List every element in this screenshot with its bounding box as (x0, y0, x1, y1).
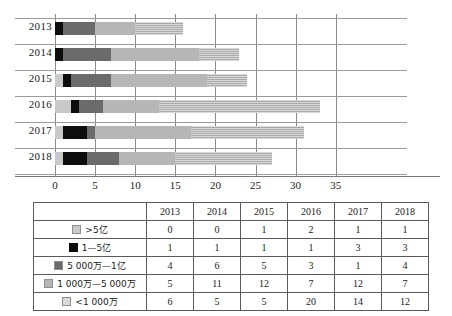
table-cell-2018: 1 (382, 221, 429, 239)
bar-segment-2016-s1 (55, 100, 71, 113)
legend-label-text: >5亿 (85, 225, 107, 235)
bar-segment-2014-s2 (55, 48, 63, 61)
gridline-horizontal (15, 44, 407, 45)
gridline-horizontal (15, 174, 407, 175)
table-cell-2014: 1 (194, 239, 241, 257)
table-cell-2013: 0 (147, 221, 194, 239)
bar-segment-2015-s3 (71, 74, 111, 87)
table-cell-2014: 0 (194, 221, 241, 239)
legend-data-table: 201320142015201620172018 >5亿0012111—5亿11… (33, 202, 429, 311)
table-cell-2018: 4 (382, 257, 429, 275)
legend-swatch-icon (44, 279, 53, 288)
x-tick-0: 0 (52, 179, 58, 191)
table-cell-2016: 2 (288, 221, 335, 239)
plot-area: 201320142015201620172018 (55, 18, 392, 176)
table-cell-2016: 7 (288, 275, 335, 293)
x-axis-line (15, 176, 440, 177)
table-cell-2013: 5 (147, 275, 194, 293)
bar-segment-2015-s1 (55, 74, 63, 87)
table-col-header-2013: 2013 (147, 203, 194, 221)
table-cell-2017: 1 (335, 221, 382, 239)
bar-segment-2016-s4 (103, 100, 159, 113)
table-cell-2015: 1 (241, 239, 288, 257)
bar-segment-2014-s3 (63, 48, 111, 61)
bar-segment-2013-s3 (63, 22, 95, 35)
table-row: 5 000万—1亿465314 (34, 257, 429, 275)
table-row: 1—5亿111133 (34, 239, 429, 257)
table-cell-2016: 3 (288, 257, 335, 275)
stacked-bar-chart: 201320142015201620172018 05101520253035 (0, 0, 452, 198)
table-cell-2017: 14 (335, 293, 382, 311)
table-cell-2015: 5 (241, 293, 288, 311)
table-cell-2015: 1 (241, 221, 288, 239)
y-axis-label-2018: 2018 (29, 149, 52, 163)
stacked-bar-2016 (55, 100, 320, 113)
table-row: 1 000万—5 000万511127127 (34, 275, 429, 293)
bar-segment-2013-s4 (95, 22, 135, 35)
stacked-bar-2014 (55, 48, 239, 61)
y-axis-label-2013: 2013 (29, 19, 52, 33)
table-cell-2018: 3 (382, 239, 429, 257)
table-row-label: 5 000万—1亿 (34, 257, 147, 275)
x-tick-35: 35 (330, 179, 341, 191)
table-cell-2017: 3 (335, 239, 382, 257)
stacked-bar-2017 (55, 126, 304, 139)
table-cell-2014: 11 (194, 275, 241, 293)
gridline-horizontal (15, 18, 407, 19)
bar-segment-2014-s5 (199, 48, 239, 61)
x-tick-20: 20 (210, 179, 221, 191)
table-cell-2016: 20 (288, 293, 335, 311)
table-row: <1 000万655201412 (34, 293, 429, 311)
x-tick-15: 15 (170, 179, 181, 191)
bar-segment-2017-s4 (95, 126, 191, 139)
bar-segment-2014-s4 (111, 48, 199, 61)
table-cell-2013: 4 (147, 257, 194, 275)
bar-segment-2013-s2 (55, 22, 63, 35)
x-tick-5: 5 (92, 179, 98, 191)
stacked-bar-2018 (55, 152, 272, 165)
legend-swatch-icon (72, 225, 81, 234)
table-col-header-2018: 2018 (382, 203, 429, 221)
table-cell-2015: 5 (241, 257, 288, 275)
table-col-header-2017: 2017 (335, 203, 382, 221)
legend-label-text: 5 000万—1亿 (67, 261, 126, 271)
x-tick-25: 25 (250, 179, 261, 191)
gridline-horizontal (15, 96, 407, 97)
table-row-label: >5亿 (34, 221, 147, 239)
bar-segment-2017-s3 (87, 126, 95, 139)
table-header-row: 201320142015201620172018 (34, 203, 429, 221)
table-col-header-2014: 2014 (194, 203, 241, 221)
bar-segment-2018-s2 (63, 152, 87, 165)
legend-swatch-icon (69, 243, 78, 252)
bar-segment-2018-s1 (55, 152, 63, 165)
table-row-label: <1 000万 (34, 293, 147, 311)
bar-segment-2016-s3 (79, 100, 103, 113)
table-cell-2013: 6 (147, 293, 194, 311)
table-row: >5亿001211 (34, 221, 429, 239)
bar-segment-2015-s2 (63, 74, 71, 87)
bar-segment-2018-s5 (175, 152, 271, 165)
legend-swatch-icon (62, 297, 71, 306)
gridline-vertical (336, 14, 337, 176)
legend-label-text: 1—5亿 (82, 243, 111, 253)
legend-label-text: 1 000万—5 000万 (57, 279, 136, 289)
gridline-horizontal (15, 148, 407, 149)
y-axis-label-2016: 2016 (29, 97, 52, 111)
table-cell-2017: 12 (335, 275, 382, 293)
table-col-header-2015: 2015 (241, 203, 288, 221)
x-tick-30: 30 (290, 179, 301, 191)
bar-segment-2015-s4 (111, 74, 207, 87)
legend-label-text: <1 000万 (75, 297, 117, 307)
table-col-header-2016: 2016 (288, 203, 335, 221)
table-cell-2016: 1 (288, 239, 335, 257)
bar-segment-2013-s5 (135, 22, 183, 35)
x-tick-10: 10 (130, 179, 141, 191)
gridline-vertical (296, 14, 297, 176)
bar-segment-2018-s4 (119, 152, 175, 165)
stacked-bar-2015 (55, 74, 247, 87)
bar-segment-2017-s2 (63, 126, 87, 139)
bar-segment-2016-s5 (159, 100, 319, 113)
gridline-horizontal (15, 122, 407, 123)
table-cell-2015: 12 (241, 275, 288, 293)
bar-segment-2018-s3 (87, 152, 119, 165)
